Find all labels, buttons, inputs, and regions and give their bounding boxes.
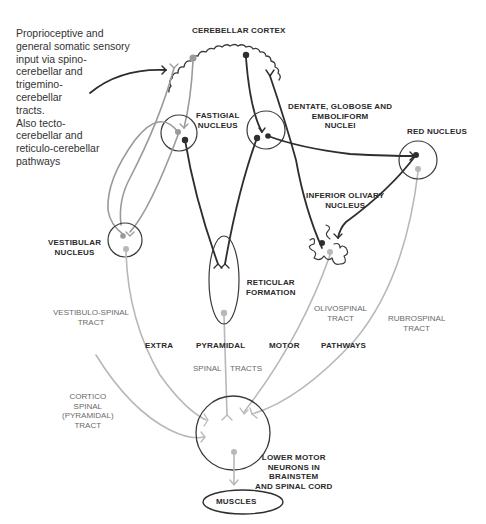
inferior-olivary-nucleus-label: INFERIOR OLIVARY NUCLEUS <box>306 191 384 210</box>
reticulo-spinal-tract-line <box>224 316 227 415</box>
dentate-nucleus-circle <box>247 111 285 149</box>
dentate-nuclei-label: DENTATE, GLOBOSE AND EMBOLIFORM NUCLEI <box>288 102 392 131</box>
pathway-word-pathways: PATHWAYS <box>321 341 366 351</box>
purkinje-to-dentate-fiber <box>246 58 262 132</box>
cerebellar-cortex-folia <box>172 45 280 81</box>
sensory-input-description: Proprioceptive and general somatic senso… <box>16 27 166 168</box>
vestibular-nucleus-circle <box>108 223 142 257</box>
reticular-formation-label: RETICULAR FORMATION <box>246 278 296 297</box>
vestibulo-spinal-tract-line <box>126 252 206 420</box>
lower-motor-neurons-label: LOWER MOTOR NEURONS IN BRAINSTEM AND SPI… <box>255 453 333 491</box>
olivospinal-tract-label: OLIVOSPINAL TRACT <box>314 304 367 323</box>
vestibular-nucleus-label: VESTIBULAR NUCLEUS <box>48 238 101 257</box>
dentate-to-reticular-fiber <box>225 138 257 264</box>
vestibulo-spinal-tract-label: VESTIBULO-SPINAL TRACT <box>53 308 129 327</box>
fastigial-to-reticular-fiber <box>185 140 218 264</box>
tracts-word-label: TRACTS <box>230 364 262 374</box>
rubrospinal-tract-label: RUBROSPINAL TRACT <box>388 314 445 333</box>
cortico-spinal-tract-label: CORTICO SPINAL (PYRAMIDAL) TRACT <box>62 392 114 430</box>
pathway-word-motor: MOTOR <box>269 341 300 351</box>
cerebellar-cortex-label: CEREBELLAR CORTEX <box>192 26 286 36</box>
pathway-word-extra: EXTRA <box>145 341 173 351</box>
spinal-word-label: SPINAL <box>193 364 221 374</box>
muscles-label: MUSCLES <box>216 497 257 507</box>
pathway-word-pyramidal: PYRAMIDAL <box>196 341 245 351</box>
fastigial-nucleus-label: FASTIGIAL NUCLEUS <box>196 111 240 130</box>
red-nucleus-label: RED NUCLEUS <box>407 127 467 137</box>
